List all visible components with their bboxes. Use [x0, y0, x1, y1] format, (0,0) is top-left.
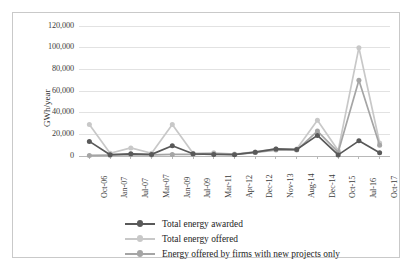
y-axis-tick-label: 20,000 [13, 129, 74, 138]
y-axis-tick-label: 80,000 [13, 64, 74, 73]
legend-item-label: Total energy awarded [162, 219, 243, 229]
x-axis-tick-label: Mar-07 [155, 174, 173, 198]
x-axis-tick-label: Dec-12 [258, 175, 276, 199]
x-axis-tick-label: Apr-12 [238, 175, 256, 198]
x-axis-tick-label: Oct-15 [341, 176, 359, 198]
x-axis-tick-label: Dec-14 [321, 175, 339, 199]
y-axis-tick-label: 40,000 [13, 107, 74, 116]
legend-item[interactable]: Total energy awarded [125, 216, 395, 231]
chart-figure: GWh/year 020,00040,00060,00080,000100,00… [0, 0, 418, 272]
x-axis-tick-label: Jan-07 [113, 177, 131, 198]
x-axis-tick-label: Jul-16 [362, 178, 380, 198]
y-axis-tick-label: 100,000 [13, 42, 74, 51]
series-line [87, 133, 382, 158]
x-axis-tick-label: Oct-17 [383, 176, 401, 198]
legend-marker-icon [125, 218, 155, 229]
legend-item-label: Total energy offered [162, 234, 238, 244]
x-axis-tick-label: Oct-06 [93, 176, 111, 198]
legend-marker-icon [125, 233, 155, 244]
chart-frame: GWh/year 020,00040,00060,00080,000100,00… [12, 12, 400, 258]
x-axis-tick-label: Jan-09 [176, 177, 194, 198]
x-axis-tick-label: Aug-14 [300, 174, 318, 198]
legend-item[interactable]: Energy offered by firms with new project… [125, 246, 395, 261]
x-axis-tick-label: Jul-09 [196, 178, 214, 198]
x-axis-tick-label: Jul-07 [134, 178, 152, 198]
legend-item-label: Energy offered by firms with new project… [162, 249, 340, 259]
y-axis-tick-label: 120,000 [13, 21, 74, 30]
x-axis-tick-label: Nov-13 [279, 174, 297, 198]
chart-legend: Total energy awardedTotal energy offered… [125, 216, 395, 261]
legend-item[interactable]: Total energy offered [125, 231, 395, 246]
y-axis-tick-label: 0 [13, 151, 74, 160]
x-axis-tick-label: Mar-11 [217, 175, 235, 199]
series-line [87, 45, 382, 156]
legend-marker-icon [125, 248, 155, 259]
y-axis-tick-label: 60,000 [13, 86, 74, 95]
